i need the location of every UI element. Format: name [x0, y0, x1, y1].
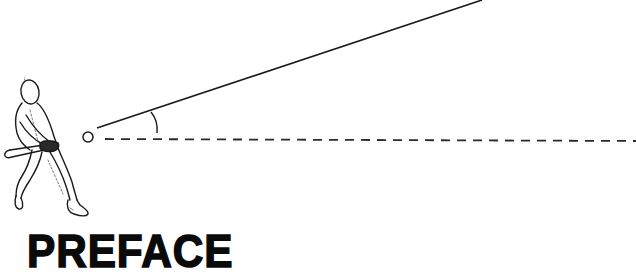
page-title: PREFACE	[27, 228, 233, 272]
launch-line	[97, 0, 482, 128]
horizontal-reference-line	[105, 139, 636, 141]
batter-figure	[5, 77, 88, 216]
ball	[83, 132, 93, 142]
angle-arc	[151, 112, 157, 133]
